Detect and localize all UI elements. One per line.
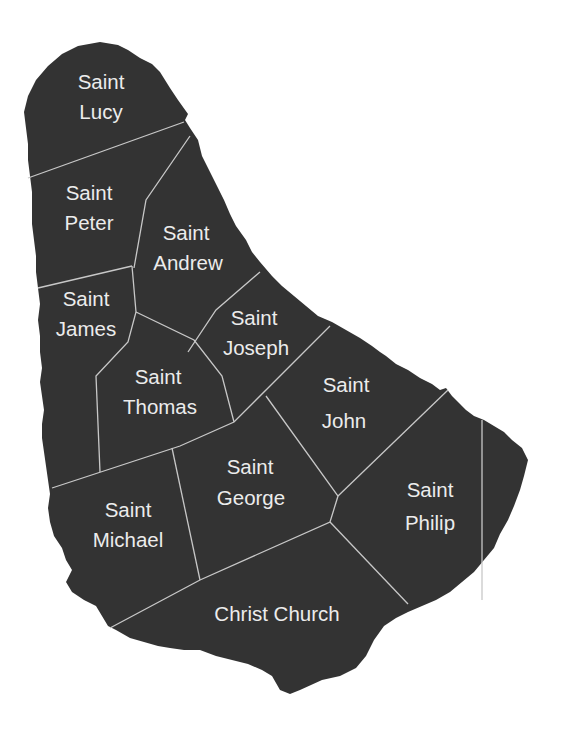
parish-label-line2: Joseph <box>223 336 289 359</box>
parish-label-line2: Thomas <box>123 395 197 418</box>
parish-label-line1: Saint <box>227 455 274 478</box>
barbados-parish-map: Saint Lucy Saint Peter Saint Andrew Sain… <box>0 0 562 742</box>
parish-label-line1: Saint <box>78 70 125 93</box>
parish-label-line2: Peter <box>65 211 114 234</box>
parish-label-line1: Saint <box>135 365 182 388</box>
parish-label-line1: Saint <box>63 287 110 310</box>
parish-label-line2: John <box>322 409 366 432</box>
parish-christ-church[interactable]: Christ Church <box>214 602 339 625</box>
parish-label-line2: Andrew <box>153 251 223 274</box>
parish-label-line1: Saint <box>105 498 152 521</box>
parish-label-line1: Saint <box>66 181 113 204</box>
parish-label-line2: Lucy <box>79 100 123 123</box>
parish-label-line2: Philip <box>405 511 455 534</box>
parish-label-line1: Saint <box>163 221 210 244</box>
parish-label-line2: Michael <box>93 528 164 551</box>
parish-label-line1: Saint <box>323 373 370 396</box>
parish-label-line1: Christ Church <box>214 602 339 625</box>
island-outline <box>24 42 528 694</box>
parish-label-line1: Saint <box>407 478 454 501</box>
parish-label-line1: Saint <box>231 306 278 329</box>
parish-label-line2: George <box>217 486 285 509</box>
parish-label-line2: James <box>56 317 116 340</box>
